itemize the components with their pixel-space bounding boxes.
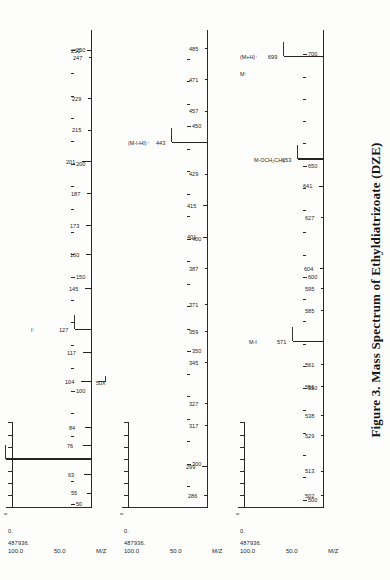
peak-annotation-571: M-I (249, 339, 257, 345)
mz-tick-420 (187, 194, 190, 195)
plot-area-3: ≈ 502513529538551561571M-I58559560462764… (238, 30, 324, 508)
mz-tick-label-300: 300 (192, 461, 201, 467)
tick-group-2: 300350400450 (187, 30, 209, 508)
mz-tick-360 (187, 329, 190, 330)
mz-tick-170 (71, 232, 74, 233)
spectrum-panel-3: 487936. 0. 100.0 50.0 M/Z ≈ 502513529538… (238, 24, 346, 554)
mz-tick-380 (187, 284, 190, 285)
mz-tick-620 (303, 232, 306, 233)
rotated-page: 487936. 0. 100.0 50.0 M/Z ≈ 556370(O=C-N… (0, 0, 390, 580)
mz-tick-520 (303, 455, 306, 456)
peak-label-127: 127 (59, 327, 68, 333)
intensity-min-label: 0. (8, 528, 13, 534)
y-tick-50-label-2: 50.0 (170, 548, 182, 554)
mz-tick-90 (71, 413, 74, 414)
mz-tick-590 (303, 299, 306, 300)
mz-tick-690 (303, 77, 306, 78)
axis-break-icon-1: ≈ (4, 511, 7, 517)
y-tick-100-label-3: 100.0 (240, 548, 255, 554)
mz-tick-label-350: 350 (192, 348, 201, 354)
mz-tick-100 (71, 391, 75, 392)
axis-break-icon-3: ≈ (236, 511, 239, 517)
intensity-max-label-2: 487936. (124, 540, 146, 546)
mz-tick-550 (303, 388, 307, 389)
mz-axis-label: M/Z (96, 548, 106, 554)
spectrum-panel-1: 487936. 0. 100.0 50.0 M/Z ≈ 556370(O=C-N… (6, 24, 114, 554)
mz-tick-580 (303, 321, 306, 322)
mz-tick-500 (303, 500, 307, 501)
mz-tick-310 (187, 441, 190, 442)
mz-tick-350 (187, 351, 191, 352)
mz-axis-label-3: M/Z (328, 548, 338, 554)
mz-tick-540 (303, 411, 306, 412)
tick-group-3: 500550600650700 (303, 30, 325, 508)
mz-tick-110 (71, 368, 74, 369)
peak-annotation-699: (M+H)⁺ (240, 54, 258, 60)
multiplier-bracket-icon (98, 376, 106, 382)
mz-tick-460 (187, 104, 190, 105)
leader-line-699 (283, 43, 284, 57)
mz-tick-label-150: 150 (76, 274, 85, 280)
mz-tick-230 (71, 96, 74, 97)
mz-tick-240 (71, 73, 74, 74)
figure-caption: Figure 3. Mass Spectrum of Ethyldiatrizo… (368, 0, 384, 580)
mz-tick-650 (303, 166, 307, 167)
mz-tick-660 (303, 143, 306, 144)
intensity-min-label-3: 0. (240, 528, 245, 534)
mz-tick-label-250: 250 (76, 47, 85, 53)
intensity-max-label: 487936. (8, 540, 30, 546)
mz-tick-400 (187, 239, 191, 240)
mz-tick-670 (303, 121, 306, 122)
peak-annotation-653: M-OCH₂CH₃ (254, 157, 284, 163)
mz-tick-530 (303, 433, 306, 434)
mz-tick-label-400: 400 (192, 236, 201, 242)
axis-break-icon-2: ≈ (120, 511, 123, 517)
figure-sheet: 487936. 0. 100.0 50.0 M/Z ≈ 556370(O=C-N… (0, 0, 390, 580)
mz-tick-140 (71, 300, 74, 301)
peak-annotation-443: (M-I-HI)⁺ (128, 140, 150, 146)
mz-tick-label-700: 700 (308, 51, 317, 57)
mz-tick-330 (187, 396, 190, 397)
mz-tick-300 (187, 464, 191, 465)
y-tick-50-label: 50.0 (54, 548, 66, 554)
mz-tick-430 (187, 171, 190, 172)
peak-label-443: 443 (156, 140, 165, 146)
leader-line-571 (292, 327, 293, 341)
mz-tick-label-450: 450 (192, 123, 201, 129)
mz-tick-label-500: 500 (308, 497, 317, 503)
mz-axis-label-2: M/Z (212, 548, 222, 554)
mz-tick-480 (187, 59, 190, 60)
leader-line-653 (297, 145, 298, 159)
mz-tick-120 (71, 345, 74, 346)
mz-tick-630 (303, 210, 306, 211)
mz-tick-470 (187, 81, 190, 82)
plot-area-2: ≈ 50X 2862993173273453593713874014154294… (122, 30, 208, 508)
intensity-max-label-3: 487936. (240, 540, 262, 546)
mz-tick-160 (71, 254, 74, 255)
peak-annotation-127: I⁺ (31, 327, 36, 333)
mz-tick-label-50: 50 (76, 501, 82, 507)
mz-tick-600 (303, 277, 307, 278)
mz-tick-370 (187, 306, 190, 307)
peak-label-699: 699 (268, 54, 277, 60)
mz-tick-320 (187, 419, 190, 420)
mz-tick-290 (187, 486, 190, 487)
mz-tick-560 (303, 366, 306, 367)
spectrum-panel-2: 487936. 0. 100.0 50.0 M/Z ≈ 50X 28629931… (122, 24, 230, 554)
mz-tick-50 (71, 504, 75, 505)
y-tick-50-label-3: 50.0 (286, 548, 298, 554)
mz-tick-250 (71, 50, 75, 51)
y-tick-100-label: 100.0 (8, 548, 23, 554)
mz-tick-label-650: 650 (308, 163, 317, 169)
mz-tick-210 (71, 141, 74, 142)
mz-tick-label-550: 550 (308, 385, 317, 391)
leader-line-443 (171, 128, 172, 142)
mz-tick-label-100: 100 (76, 388, 85, 394)
peak-label-571: 571 (277, 339, 286, 345)
intensity-ruler-2 (122, 422, 129, 508)
y-tick-100-label-2: 100.0 (124, 548, 139, 554)
mz-tick-70 (71, 459, 74, 460)
mz-tick-130 (71, 322, 74, 323)
mz-tick-510 (303, 477, 306, 478)
mz-tick-150 (71, 277, 75, 278)
